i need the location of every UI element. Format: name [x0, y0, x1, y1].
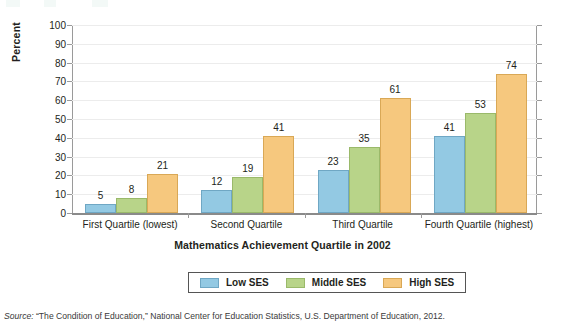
y-tick-mark	[537, 175, 542, 176]
x-tick-mark	[421, 213, 422, 218]
bar-middle[interactable]	[465, 113, 496, 213]
y-tick-label: 50	[26, 114, 66, 125]
bar-high[interactable]	[380, 98, 411, 213]
bar-value-label: 35	[358, 133, 369, 144]
y-tick-label: 40	[26, 132, 66, 143]
bar-low[interactable]	[201, 190, 232, 213]
x-category-label: Third Quartile	[332, 219, 393, 230]
legend-swatch-high	[383, 278, 402, 288]
y-tick-mark	[537, 100, 542, 101]
bar-middle[interactable]	[116, 198, 147, 213]
y-tick-label: 0	[26, 208, 66, 219]
bar-high[interactable]	[263, 136, 294, 213]
y-tick-mark	[537, 63, 542, 64]
bar-low[interactable]	[318, 170, 349, 213]
x-category-label: Fourth Quartile (highest)	[425, 219, 533, 230]
y-tick-label: 20	[26, 170, 66, 181]
legend-swatch-low	[200, 278, 219, 288]
bar-middle[interactable]	[232, 177, 263, 213]
source-text: “The Condition of Education,” National C…	[34, 311, 445, 321]
y-tick-mark	[537, 138, 542, 139]
source-note: Source: “The Condition of Education,” Na…	[4, 311, 445, 321]
bar-value-label: 41	[444, 122, 455, 133]
bar-high[interactable]	[496, 74, 527, 213]
bar-value-label: 23	[327, 156, 338, 167]
legend-item[interactable]: Middle SES	[286, 277, 366, 288]
bar-value-label: 61	[389, 84, 400, 95]
source-label: Source:	[4, 311, 34, 321]
y-tick-label: 30	[26, 151, 66, 162]
y-tick-label: 70	[26, 76, 66, 87]
legend-item[interactable]: High SES	[383, 277, 454, 288]
legend-label: Middle SES	[312, 277, 366, 288]
bar-group: 121941	[188, 25, 304, 213]
bar-low[interactable]	[85, 204, 116, 213]
x-axis-title: Mathematics Achievement Quartile in 2002	[0, 239, 565, 251]
legend-swatch-middle	[286, 278, 305, 288]
y-tick-mark	[537, 25, 542, 26]
y-tick-label: 80	[26, 57, 66, 68]
bar-low[interactable]	[434, 136, 465, 213]
bar-value-label: 41	[273, 122, 284, 133]
bar-middle[interactable]	[349, 147, 380, 213]
y-tick-label: 10	[26, 189, 66, 200]
bar-value-label: 5	[98, 190, 104, 201]
y-tick-mark	[537, 194, 542, 195]
x-category-label: First Quartile (lowest)	[83, 219, 178, 230]
bar-value-label: 53	[475, 99, 486, 110]
bar-chart-figure: Percent 5821121941233561415374 100908070…	[0, 0, 565, 328]
y-tick-label: 90	[26, 38, 66, 49]
bar-value-label: 8	[129, 184, 135, 195]
chart-legend: Low SESMiddle SESHigh SES	[188, 272, 466, 293]
y-tick-mark	[537, 119, 542, 120]
bar-group: 233561	[305, 25, 421, 213]
y-tick-mark	[537, 44, 542, 45]
legend-label: Low SES	[226, 277, 269, 288]
bar-value-label: 21	[157, 160, 168, 171]
x-category-label: Second Quartile	[211, 219, 283, 230]
x-tick-mark	[188, 213, 189, 218]
bar-value-label: 12	[211, 176, 222, 187]
bar-value-label: 19	[242, 163, 253, 174]
y-tick-label: 60	[26, 95, 66, 106]
bar-group: 5821	[72, 25, 188, 213]
plot-area: 5821121941233561415374	[72, 25, 537, 213]
bar-group: 415374	[421, 25, 537, 213]
y-tick-label: 100	[26, 20, 66, 31]
y-tick-mark	[537, 157, 542, 158]
bar-value-label: 74	[506, 60, 517, 71]
bar-high[interactable]	[147, 174, 178, 213]
y-tick-mark	[537, 213, 542, 214]
y-tick-mark	[537, 81, 542, 82]
legend-label: High SES	[409, 277, 454, 288]
y-tick-mark	[67, 213, 72, 214]
legend-item[interactable]: Low SES	[200, 277, 269, 288]
x-tick-mark	[305, 213, 306, 218]
